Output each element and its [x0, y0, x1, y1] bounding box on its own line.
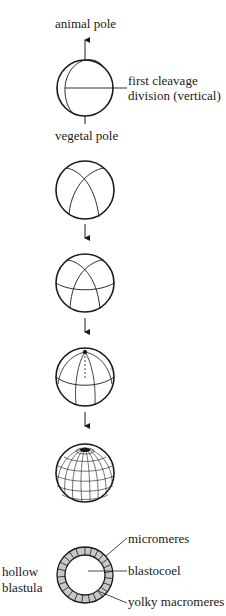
- stage-2-sphere: [56, 161, 114, 219]
- cleavage-diagram: [0, 0, 226, 616]
- micromeres-pointer-line: [106, 538, 127, 556]
- stage-4-sphere: [56, 348, 114, 406]
- stage-3-sphere: [56, 254, 114, 312]
- stage-1-sphere: [57, 40, 127, 124]
- stage-5-morula: [56, 444, 114, 502]
- blastula-cross-section: [57, 538, 127, 603]
